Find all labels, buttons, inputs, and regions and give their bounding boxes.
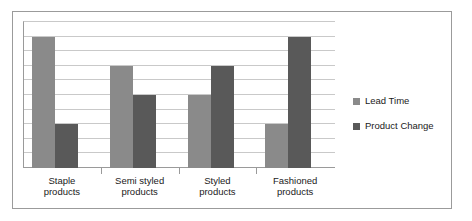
plot-area — [23, 21, 335, 168]
category-label: Fashionedproducts — [256, 175, 334, 197]
category-label-line: products — [178, 186, 256, 197]
category-axis: StapleproductsSemi styledproductsStyledp… — [23, 168, 335, 208]
category-label: Semi styledproducts — [101, 175, 179, 197]
bar-product-change — [133, 95, 156, 168]
bar-lead-time — [188, 95, 211, 168]
legend-swatch-icon — [353, 123, 360, 130]
bar-lead-time — [32, 37, 55, 168]
legend-label: Product Change — [365, 121, 434, 131]
bar-group — [24, 22, 102, 168]
legend-label: Lead Time — [365, 96, 409, 106]
bar-product-change — [55, 124, 78, 168]
bar-product-change — [211, 66, 234, 168]
category-tick — [256, 168, 257, 174]
chart-frame: StapleproductsSemi styledproductsStyledp… — [12, 11, 452, 209]
category-label: Stapleproducts — [23, 175, 101, 197]
category-label: Styledproducts — [178, 175, 256, 197]
chart-legend: Lead TimeProduct Change — [353, 96, 449, 146]
category-label-line: Styled — [178, 175, 256, 186]
bar-lead-time — [110, 66, 133, 168]
legend-item[interactable]: Product Change — [353, 121, 449, 131]
category-label-line: products — [101, 186, 179, 197]
legend-swatch-icon — [353, 98, 360, 105]
bar-lead-time — [265, 124, 288, 168]
legend-item[interactable]: Lead Time — [353, 96, 449, 106]
bar-group — [180, 22, 258, 168]
category-tick — [179, 168, 180, 174]
category-label-line: Staple — [23, 175, 101, 186]
category-label-line: products — [256, 186, 334, 197]
bars-layer — [24, 22, 335, 168]
bar-group — [102, 22, 180, 168]
bar-product-change — [288, 37, 311, 168]
category-label-line: Fashioned — [256, 175, 334, 186]
category-label-line: products — [23, 186, 101, 197]
bar-group — [257, 22, 335, 168]
category-label-line: Semi styled — [101, 175, 179, 186]
category-tick — [101, 168, 102, 174]
